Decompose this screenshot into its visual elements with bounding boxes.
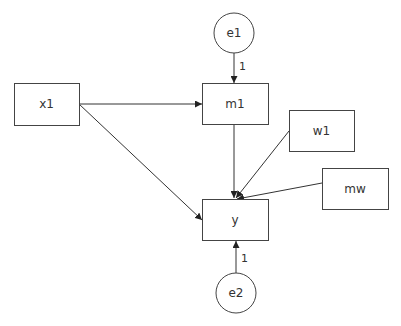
node-e2[interactable]: e2 <box>216 273 256 313</box>
edges-layer <box>79 53 322 273</box>
node-y[interactable]: y <box>203 200 269 241</box>
node-e1[interactable]: e1 <box>214 13 254 53</box>
node-label: e2 <box>228 286 243 300</box>
edge-label-e2-to-y: 1 <box>241 252 248 265</box>
node-mw[interactable]: mw <box>323 169 389 210</box>
node-label: mw <box>344 182 366 196</box>
node-label: m1 <box>225 97 244 111</box>
node-label: x1 <box>39 97 54 111</box>
edge-label-e1-to-m1: 1 <box>239 60 246 73</box>
node-label: y <box>231 213 238 227</box>
path-diagram: e1x1m1w1mwye2 11 <box>0 0 401 326</box>
edge-w1-to-y <box>236 131 289 198</box>
node-w1[interactable]: w1 <box>290 111 355 152</box>
edge-x1-to-y <box>79 104 202 220</box>
node-label: e1 <box>226 26 241 40</box>
node-x1[interactable]: x1 <box>15 84 80 126</box>
edge-mw-to-y <box>237 183 322 199</box>
nodes-layer: e1x1m1w1mwye2 <box>15 13 389 313</box>
node-label: w1 <box>313 124 330 138</box>
node-m1[interactable]: m1 <box>203 84 269 125</box>
